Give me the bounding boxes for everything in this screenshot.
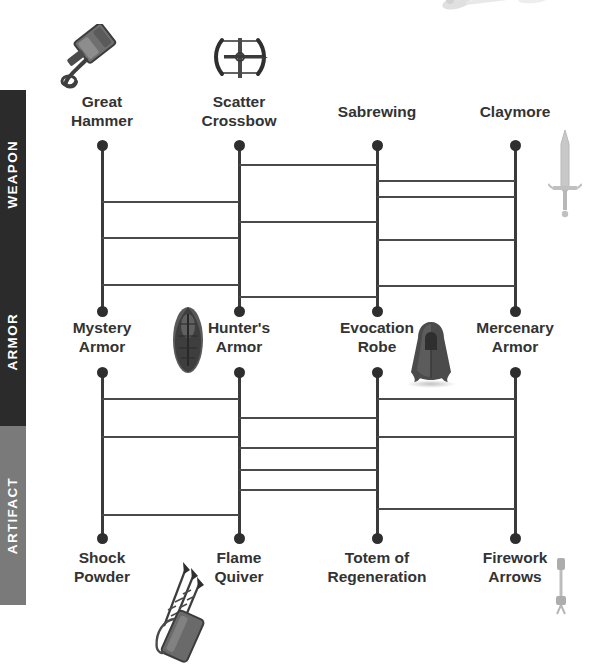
category-band-armor-label: ARMOR (0, 313, 26, 371)
ladder-rung[interactable] (377, 285, 515, 287)
ladder-rung[interactable] (239, 164, 377, 166)
category-band-weapon[interactable]: WEAPON (0, 90, 26, 258)
ladder-column-0 (101, 372, 104, 538)
node-label-totem-of-regeneration[interactable]: Totem of Regeneration (312, 548, 442, 586)
robe-icon (402, 320, 460, 388)
ladder-rung[interactable] (377, 239, 515, 241)
ladder-node[interactable] (97, 533, 108, 544)
ladder-node[interactable] (97, 140, 108, 151)
node-label-great-hammer[interactable]: Great Hammer (47, 92, 157, 130)
ladder-rung[interactable] (239, 447, 377, 449)
node-label-claymore[interactable]: Claymore (460, 102, 570, 121)
ladder-node[interactable] (234, 367, 245, 378)
cloak-armor-icon (167, 300, 209, 374)
ladder-rung[interactable] (377, 398, 515, 400)
node-label-mercenary-armor[interactable]: Mercenary Armor (456, 318, 574, 356)
ladder-rung[interactable] (377, 196, 515, 198)
ladder-rung[interactable] (377, 508, 515, 510)
category-band-weapon-label: WEAPON (0, 140, 26, 209)
ladder-node[interactable] (234, 533, 245, 544)
ladder-rung[interactable] (377, 180, 515, 182)
crossbow-icon (210, 32, 272, 86)
ladder-node[interactable] (234, 306, 245, 317)
faded-weapon-icon (438, 0, 558, 24)
category-band-artifact-label: ARTIFACT (0, 477, 26, 554)
ladder-rung[interactable] (102, 284, 239, 286)
ladder-node[interactable] (510, 367, 521, 378)
ladder-rung[interactable] (239, 221, 377, 223)
node-label-mystery-armor[interactable]: Mystery Armor (43, 318, 161, 356)
ladder-node[interactable] (510, 306, 521, 317)
ladder-node[interactable] (510, 140, 521, 151)
firework-arrow-icon (551, 558, 571, 616)
category-band-artifact[interactable]: ARTIFACT (0, 426, 26, 605)
category-band-armor[interactable]: ARMOR (0, 258, 26, 426)
ladder-node[interactable] (372, 140, 383, 151)
ladder-rung[interactable] (239, 417, 377, 419)
node-label-scatter-crossbow[interactable]: Scatter Crossbow (184, 92, 294, 130)
ladder-node[interactable] (234, 140, 245, 151)
greatsword-icon (548, 130, 582, 222)
ladder-node[interactable] (97, 306, 108, 317)
ladder-rung[interactable] (102, 237, 239, 239)
ladder-column-3 (514, 372, 517, 538)
ladder-node[interactable] (372, 367, 383, 378)
arrow-quiver-icon (138, 552, 222, 664)
node-label-sabrewing[interactable]: Sabrewing (322, 102, 432, 121)
ladder-column-2 (376, 145, 379, 311)
ladder-column-3 (514, 145, 517, 311)
ladder-rung[interactable] (239, 296, 377, 298)
ladder-node[interactable] (372, 533, 383, 544)
ladder-rung[interactable] (239, 489, 377, 491)
ladder-column-2 (376, 372, 379, 538)
ladder-rung[interactable] (102, 436, 239, 438)
ladder-column-1 (238, 145, 241, 311)
ladder-rung[interactable] (102, 398, 239, 400)
ladder-rung[interactable] (102, 514, 239, 516)
diagram-canvas: WEAPON ARMOR ARTIFACT Great Hammer Scatt… (0, 0, 602, 664)
ladder-node[interactable] (372, 306, 383, 317)
ladder-rung[interactable] (102, 201, 239, 203)
robe-shadow (406, 380, 456, 388)
ladder-rung[interactable] (377, 436, 515, 438)
ladder-node[interactable] (510, 533, 521, 544)
war-hammer-icon (52, 24, 138, 90)
ladder-column-1 (238, 372, 241, 538)
ladder-column-0 (101, 145, 104, 311)
ladder-rung[interactable] (239, 469, 377, 471)
ladder-node[interactable] (97, 367, 108, 378)
